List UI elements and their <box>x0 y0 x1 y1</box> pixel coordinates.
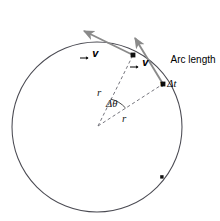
vector-arrow-overbar-icon <box>130 40 139 45</box>
arc-length-formula: v Δt <box>160 78 216 90</box>
arc-length-annotation: Arc length v Δt <box>160 43 216 112</box>
velocity-vector-label-1: v <box>80 6 98 72</box>
arc-length-title: Arc length <box>171 54 216 65</box>
velocity-vector-label-2: v <box>130 15 148 81</box>
circular-motion-figure: v v r r Δθ Arc length v Δt <box>0 0 220 221</box>
radius-line-1 <box>98 55 133 126</box>
radius-label-1: r <box>97 86 101 98</box>
radius-label-2: r <box>122 112 126 124</box>
delta-theta-label: Δθ <box>106 98 117 110</box>
vector-arrow-overbar-icon <box>80 31 89 36</box>
circle-marker-dot <box>160 175 163 178</box>
